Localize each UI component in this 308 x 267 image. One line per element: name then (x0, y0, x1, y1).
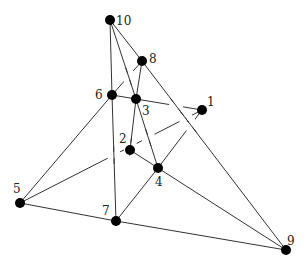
node-label-6: 6 (95, 88, 103, 102)
edge-6-5 (20, 95, 112, 203)
node-6 (107, 90, 117, 100)
labels-layer: 12345678910 (13, 14, 295, 248)
edge-over-segment (114, 146, 115, 164)
edge-8-9 (142, 61, 286, 250)
node-label-7: 7 (102, 204, 110, 218)
node-label-2: 2 (119, 132, 127, 146)
node-label-5: 5 (13, 182, 21, 196)
node-1 (197, 105, 207, 115)
edge-10-3 (110, 20, 136, 99)
edge-10-6 (110, 20, 112, 95)
graph-diagram: 12345678910 (0, 0, 308, 267)
edge-7-9 (116, 221, 286, 250)
node-8 (137, 56, 147, 66)
edge-4-7 (116, 168, 158, 221)
node-2 (125, 145, 135, 155)
node-10 (105, 15, 115, 25)
node-label-10: 10 (116, 14, 131, 28)
node-3 (131, 94, 141, 104)
node-7 (111, 216, 121, 226)
node-label-1: 1 (207, 95, 215, 109)
graph-svg: 12345678910 (0, 0, 308, 267)
node-label-3: 3 (142, 104, 150, 118)
node-4 (153, 163, 163, 173)
node-5 (15, 198, 25, 208)
node-label-9: 9 (287, 234, 295, 248)
node-label-8: 8 (149, 52, 157, 66)
edge-4-9 (158, 168, 286, 250)
node-label-4: 4 (155, 175, 163, 189)
